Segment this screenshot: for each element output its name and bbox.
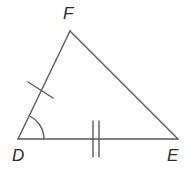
vertex-label-D: D bbox=[12, 147, 24, 164]
side-FE bbox=[70, 31, 178, 139]
triangle-sides bbox=[18, 31, 178, 139]
vertex-label-E: E bbox=[167, 147, 178, 164]
geometry-figure: F D E bbox=[0, 0, 193, 176]
vertex-label-F: F bbox=[63, 5, 73, 22]
triangle-diagram-svg bbox=[0, 0, 193, 176]
congruence-marks bbox=[28, 82, 99, 157]
angle-arc-at-D bbox=[31, 117, 45, 140]
angle-arc-icon bbox=[31, 117, 45, 140]
side-DF bbox=[18, 31, 70, 139]
single-tick-mark-icon bbox=[28, 82, 53, 98]
